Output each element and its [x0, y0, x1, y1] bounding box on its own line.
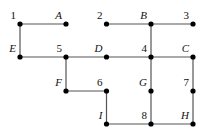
node-label-1: 1: [11, 9, 17, 21]
node-label-7: 7: [184, 76, 190, 88]
node-B: [148, 21, 153, 26]
node-A: [63, 21, 68, 26]
node-label-D: D: [94, 42, 103, 54]
node-label-I: I: [98, 109, 104, 121]
node-label-G: G: [139, 76, 147, 88]
node-3: [190, 21, 195, 26]
node-G: [148, 88, 153, 93]
node-4: [148, 54, 153, 59]
node-label-5: 5: [57, 42, 63, 54]
node-E: [17, 54, 22, 59]
node-label-H: H: [180, 109, 190, 121]
node-label-3: 3: [184, 9, 190, 21]
node-label-C: C: [182, 42, 190, 54]
node-C: [190, 54, 195, 59]
node-label-8: 8: [142, 109, 148, 121]
node-F: [63, 88, 68, 93]
node-H: [190, 121, 195, 126]
node-5: [63, 54, 68, 59]
node-7: [190, 88, 195, 93]
node-label-E: E: [8, 42, 16, 54]
graph-diagram: 1A2B3E5D4CF6G7I8H: [0, 0, 205, 134]
edges-group: [20, 24, 193, 124]
node-1: [17, 21, 22, 26]
node-8: [148, 121, 153, 126]
node-label-B: B: [140, 9, 147, 21]
node-D: [104, 54, 109, 59]
node-label-4: 4: [142, 42, 148, 54]
node-label-A: A: [54, 9, 62, 21]
node-I: [104, 121, 109, 126]
labels-group: 1A2B3E5D4CF6G7I8H: [8, 9, 190, 121]
node-label-2: 2: [97, 9, 103, 21]
node-6: [104, 88, 109, 93]
node-label-F: F: [54, 76, 62, 88]
node-label-6: 6: [97, 76, 103, 88]
node-2: [104, 21, 109, 26]
